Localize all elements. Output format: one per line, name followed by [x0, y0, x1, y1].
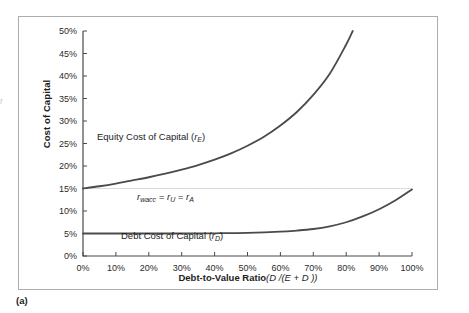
annotation-wacc-sub3: A: [189, 196, 194, 203]
annotation-equity-cost-of-capital: Equity Cost of Capital (rE): [97, 131, 205, 143]
y-tick-label: 5%: [41, 229, 77, 239]
annotation-wacc-sub2: U: [170, 196, 175, 203]
annotation-wacc-equals-1: =: [159, 191, 165, 202]
annotation-wacc-sub1: wacc: [140, 196, 156, 203]
figure-caption: (a): [16, 295, 28, 306]
y-tick-label: 10%: [41, 206, 77, 216]
chart-plate: [18, 16, 438, 290]
annotation-wacc-equality: rwacc = rU = rA: [137, 191, 194, 203]
y-tick-label: 0%: [41, 251, 77, 261]
margin-text-fragment: r: [0, 96, 10, 106]
x-axis-title-math: (D /(E + D )): [266, 272, 317, 283]
figure-container: r 0%5%10%15%20%25%30%35%40%45%50% 0%10%2…: [0, 0, 469, 313]
annotation-debt-text: Debt Cost of Capital (: [121, 230, 212, 241]
y-tick-label: 50%: [41, 26, 77, 36]
annotation-equity-text: Equity Cost of Capital (: [97, 131, 194, 142]
annotation-debt-close: ): [220, 230, 223, 241]
y-axis-title: Cost of Capital: [41, 59, 52, 169]
y-tick-label: 15%: [41, 184, 77, 194]
annotation-debt-cost-of-capital: Debt Cost of Capital (rD): [121, 230, 223, 242]
y-tick-label: 45%: [41, 49, 77, 59]
x-axis-title: Debt-to-Value Ratio(D /(E + D )): [83, 272, 413, 283]
annotation-equity-close: ): [202, 131, 205, 142]
x-axis-title-plain: Debt-to-Value Ratio: [178, 272, 266, 283]
annotation-wacc-equals-2: =: [178, 191, 184, 202]
